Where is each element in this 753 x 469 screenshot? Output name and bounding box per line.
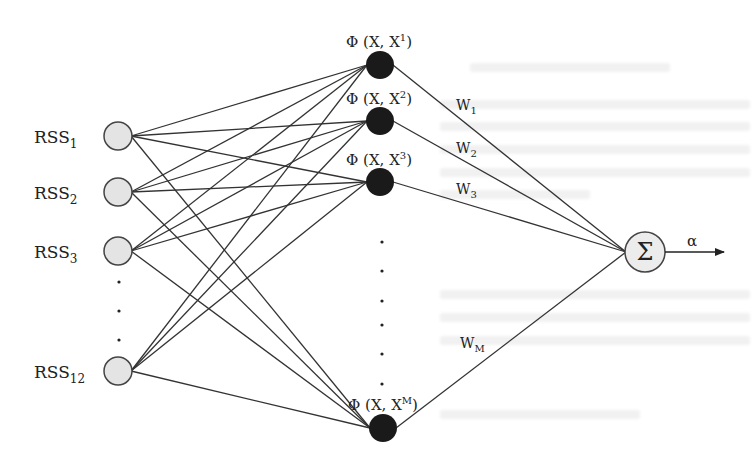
hidden-node [366,107,394,135]
weight-line [393,182,626,252]
weight-subscript: 3 [470,189,476,200]
input-label-subscript: 1 [70,137,78,151]
weight-line [393,65,626,252]
weight-label: W1 [456,97,477,116]
basis-function-label: Φ (X, XM) [348,395,418,414]
output-label: α [687,232,697,250]
rbf-network-diagram: RSS1RSS2RSS3RSS12 Φ (X, X1)Φ (X, X2)Φ (X… [0,0,753,469]
weight-line [393,121,626,252]
weight-subscript: M [474,343,484,354]
ellipsis-dot [117,309,120,312]
basis-function-label: Φ (X, X3) [346,150,412,169]
input-layer: RSS1RSS2RSS3RSS12 [34,122,132,386]
weight-line [396,252,626,428]
input-label-subscript: 12 [70,372,85,386]
ellipsis-dot [380,240,383,243]
connection-line [131,182,367,251]
connection-line [131,65,367,136]
ellipsis-dot [380,352,383,355]
ellipsis-dot [380,299,383,302]
hidden-node [369,414,397,442]
ellipsis-dot [380,382,383,385]
weight-label: WM [460,335,485,354]
ellipsis-dot [380,323,383,326]
basis-function-superscript: M [402,395,412,406]
ellipsis-dots [117,240,383,385]
input-node [104,122,132,150]
input-label: RSS2 [34,183,77,207]
connection-line [131,182,367,192]
basis-function-label: Φ (X, X1) [346,32,412,51]
connection-line [131,121,367,251]
input-label: RSS12 [34,362,85,386]
input-hidden-connections [131,65,370,428]
input-node [104,357,132,385]
connection-line [131,121,367,192]
input-label: RSS3 [34,242,77,266]
input-label: RSS1 [34,127,77,151]
connection-line [131,251,370,428]
hidden-output-connections [393,65,626,428]
connection-line [131,65,367,371]
weight-subscript: 2 [470,148,476,159]
ellipsis-dot [380,269,383,272]
connection-line [131,371,370,428]
hidden-node [366,168,394,196]
connection-line [131,192,370,428]
connection-line [131,65,367,192]
connection-line [131,136,370,428]
weight-label: W3 [456,181,477,200]
weight-subscript: 1 [470,105,476,116]
input-node [104,178,132,206]
input-label-subscript: 2 [70,193,78,207]
input-node [104,237,132,265]
ellipsis-dot [117,280,120,283]
hidden-node [366,51,394,79]
output-layer: Σα [625,232,724,272]
weight-label: W2 [456,140,477,159]
input-label-subscript: 3 [70,252,78,266]
hidden-layer: Φ (X, X1)Φ (X, X2)Φ (X, X3)Φ (X, XM) [346,32,418,442]
ellipsis-dot [117,338,120,341]
basis-function-label: Φ (X, X2) [346,89,412,108]
sigma-icon: Σ [637,238,654,266]
